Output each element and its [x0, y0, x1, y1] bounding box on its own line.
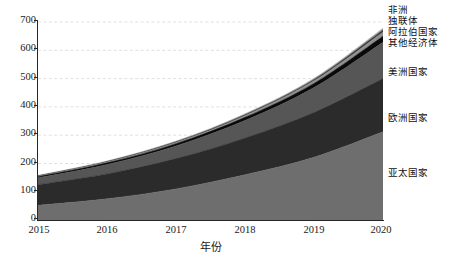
- x-tick-label-2015: 2015: [29, 224, 50, 235]
- y-tick-label-700: 700: [2, 15, 36, 26]
- legend-item-europe[interactable]: 欧洲国家: [388, 113, 428, 124]
- legend-item-arab-states[interactable]: 阿拉伯国家: [388, 27, 438, 38]
- plot-area: [38, 20, 383, 220]
- x-tick-label-2019: 2019: [304, 224, 325, 235]
- y-tick-label-200: 200: [2, 157, 36, 168]
- y-tick-label-600: 600: [2, 43, 36, 54]
- x-tick-label-2017: 2017: [166, 224, 187, 235]
- x-tick-label-2018: 2018: [235, 224, 256, 235]
- stacked-area-chart: 700 600 500 400 300 200 100 0: [0, 0, 454, 264]
- x-tick-label-2016: 2016: [97, 224, 118, 235]
- legend-item-other-economies[interactable]: 其他经济体: [388, 38, 438, 49]
- legend-item-cis[interactable]: 独联体: [388, 16, 418, 27]
- x-axis-title: 年份: [38, 241, 383, 253]
- stacked-area-bands: [38, 28, 383, 220]
- y-tick-label-300: 300: [2, 128, 36, 139]
- legend: 非洲 独联体 阿拉伯国家 其他经济体 美洲国家 欧洲国家 亚太国家: [388, 0, 454, 264]
- x-axis-line: [37, 220, 384, 221]
- area-series-svg: [38, 20, 383, 220]
- y-axis-line: [37, 20, 38, 220]
- legend-item-asia-pacific[interactable]: 亚太国家: [388, 168, 428, 179]
- legend-item-americas[interactable]: 美洲国家: [388, 67, 428, 78]
- y-tick-label-500: 500: [2, 72, 36, 83]
- y-tick-label-0: 0: [2, 213, 36, 224]
- y-tick-label-400: 400: [2, 100, 36, 111]
- y-tick-label-100: 100: [2, 185, 36, 196]
- legend-item-africa[interactable]: 非洲: [388, 5, 408, 16]
